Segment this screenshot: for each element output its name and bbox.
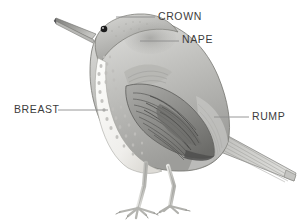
label-rump: RUMP [252,111,285,122]
front-foot [120,208,154,218]
rear-foot [160,206,186,213]
bird-anatomy-figure: CROWN NAPE BREAST RUMP [0,0,306,224]
label-nape: NAPE [182,34,213,45]
beak [54,18,96,43]
eye [101,26,108,33]
label-breast: BREAST [14,104,60,115]
label-crown: CROWN [158,11,202,22]
